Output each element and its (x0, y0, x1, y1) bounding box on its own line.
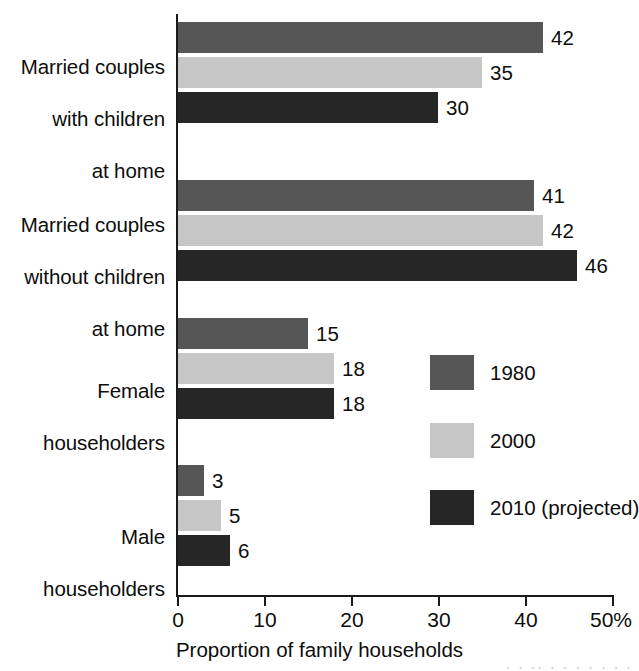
category-label-line: Female (0, 378, 165, 404)
category-label-line: at home (0, 316, 165, 342)
legend-label-2010-projected: 2010 (projected) (490, 490, 639, 525)
bar-value-label: 46 (585, 250, 608, 281)
bar-married-without-children-1980 (178, 180, 534, 211)
category-label-line: Married couples (0, 212, 165, 238)
bar-male-householders-2010 (178, 535, 230, 566)
category-label-line: Male (0, 524, 165, 550)
category-label-line: householders (0, 576, 165, 602)
x-axis-tick-label-40: 40 (506, 608, 546, 632)
scan-artifact: . . .. . . . . . . . (0, 657, 639, 671)
x-axis-tick-10 (264, 597, 266, 606)
category-label-line: householders (0, 430, 165, 456)
bar-married-without-children-2010 (178, 250, 577, 281)
x-axis-tick-label-20: 20 (332, 608, 372, 632)
x-axis-line (176, 595, 614, 597)
bar-value-label: 35 (490, 57, 513, 88)
legend-swatch-2010 (430, 490, 474, 525)
x-axis-tick-label-0: 0 (158, 608, 198, 632)
bar-chart: Married couples with children at home Ma… (0, 0, 639, 671)
category-label-female-householders: Female householders (0, 352, 165, 482)
x-axis-tick-0 (177, 597, 179, 606)
bar-married-with-children-1980 (178, 22, 543, 53)
bar-value-label: 42 (551, 22, 574, 53)
bar-female-householders-1980 (178, 318, 308, 349)
x-axis-tick-30 (438, 597, 440, 606)
bar-value-label: 5 (229, 500, 240, 531)
category-label-married-without-children: Married couples without children at home (0, 186, 165, 368)
x-axis-tick-20 (351, 597, 353, 606)
legend-label-1980: 1980 (490, 355, 536, 390)
bar-male-householders-1980 (178, 465, 204, 496)
bar-male-householders-2000 (178, 500, 221, 531)
x-axis-tick-label-30: 30 (419, 608, 459, 632)
category-label-married-with-children: Married couples with children at home (0, 28, 165, 210)
x-axis-tick-50 (612, 597, 614, 606)
bar-value-label: 30 (446, 92, 469, 123)
legend-swatch-1980 (430, 355, 474, 390)
bar-married-without-children-2000 (178, 215, 543, 246)
bar-value-label: 41 (542, 180, 565, 211)
bar-married-with-children-2000 (178, 57, 482, 88)
bar-value-label: 6 (238, 535, 249, 566)
category-label-line: without children (0, 264, 165, 290)
bar-value-label: 18 (342, 353, 365, 384)
bar-female-householders-2010 (178, 388, 334, 419)
legend-swatch-2000 (430, 423, 474, 458)
category-label-line: Married couples (0, 54, 165, 80)
bar-value-label: 3 (212, 465, 223, 496)
bar-value-label: 15 (316, 318, 339, 349)
category-label-line: at home (0, 158, 165, 184)
bar-value-label: 18 (342, 388, 365, 419)
x-axis-tick-label-10: 10 (245, 608, 285, 632)
category-label-line: with children (0, 106, 165, 132)
bar-female-householders-2000 (178, 353, 334, 384)
bar-married-with-children-2010 (178, 92, 438, 123)
category-label-male-householders: Male householders (0, 498, 165, 628)
legend-label-2000: 2000 (490, 423, 536, 458)
bar-value-label: 42 (551, 215, 574, 246)
y-axis-line (176, 14, 178, 597)
x-axis-tick-label-50: 50% (583, 608, 639, 632)
x-axis-tick-40 (525, 597, 527, 606)
